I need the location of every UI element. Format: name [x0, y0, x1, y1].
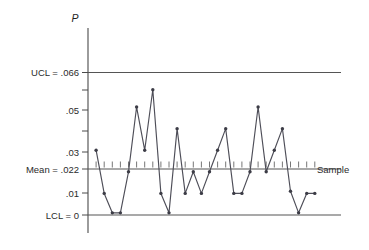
data-point [127, 170, 130, 173]
data-point [216, 149, 219, 152]
data-point [94, 149, 97, 152]
data-point [232, 192, 235, 195]
y-axis-title: P [71, 12, 78, 24]
data-point [143, 149, 146, 152]
data-point [103, 192, 106, 195]
ucl-label: UCL = .066 [31, 67, 79, 78]
data-point [200, 192, 203, 195]
data-point-markers [94, 88, 316, 214]
y-tick-label-03: .03 [66, 147, 79, 158]
y-tick-label-01: .01 [66, 188, 79, 199]
data-point [281, 127, 284, 130]
data-point [151, 88, 154, 91]
data-point [265, 170, 268, 173]
data-point [224, 127, 227, 130]
data-point [273, 149, 276, 152]
data-point [240, 192, 243, 195]
chart-canvas: P UCL = .066 .05 .03 Mean = .022 .01 LCL… [0, 0, 369, 250]
data-point [256, 105, 259, 108]
data-point [208, 170, 211, 173]
lcl-label: LCL = 0 [46, 210, 79, 221]
y-tick-label-05: .05 [66, 105, 79, 116]
data-point [167, 211, 170, 214]
data-point [248, 170, 251, 173]
data-point [289, 190, 292, 193]
y-axis-ticks [82, 73, 88, 216]
data-point [119, 211, 122, 214]
data-point [184, 192, 187, 195]
data-series-line [96, 90, 315, 213]
data-point [111, 211, 114, 214]
mean-label: Mean = .022 [26, 164, 79, 175]
data-point [192, 170, 195, 173]
data-point [135, 105, 138, 108]
data-point [159, 192, 162, 195]
x-axis-title: Sample [317, 164, 349, 175]
data-point [297, 211, 300, 214]
data-point [305, 192, 308, 195]
control-chart: P UCL = .066 .05 .03 Mean = .022 .01 LCL… [0, 0, 369, 250]
data-point [175, 127, 178, 130]
data-point [313, 192, 316, 195]
